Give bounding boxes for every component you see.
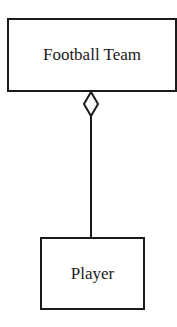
class-label: Football Team (43, 45, 141, 65)
aggregation-diamond-icon (84, 92, 98, 116)
class-label: Player (71, 264, 114, 284)
class-box-football-team: Football Team (7, 18, 177, 92)
class-box-player: Player (40, 237, 145, 310)
